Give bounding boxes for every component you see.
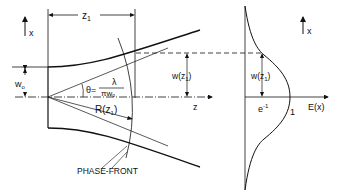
e-inverse-label: e-1 [258,103,269,114]
z-axis-label: z [193,102,198,112]
theta-numerator: λ [112,77,117,87]
right-w-z1-label: w(z1) [250,71,271,82]
theta-label: θ= [86,85,96,95]
left-x-label: x [29,28,34,38]
right-x-axis-arrow: x [303,17,312,36]
gaussian-beam-diagram: x z z1 wo θ= λ πwo R(z1) PHASE-FRONT w(z… [0,0,338,195]
beam-lower-envelope [48,128,200,167]
phase-front-label: PHASE-FRONT [77,166,138,176]
left-x-axis-arrow: x [25,17,34,38]
radius-label: R(z1) [95,104,117,116]
radius-line [48,97,132,119]
beam-upper-envelope [48,30,200,67]
w0-label: wo [14,79,26,90]
gaussian-profile [245,6,290,190]
theta-denominator: πwo [101,89,115,98]
left-w-z1-label: w(z1) [171,71,192,82]
one-label: 1 [290,107,295,117]
right-x-label: x [307,26,312,36]
E-axis-label: E(x) [308,102,325,112]
